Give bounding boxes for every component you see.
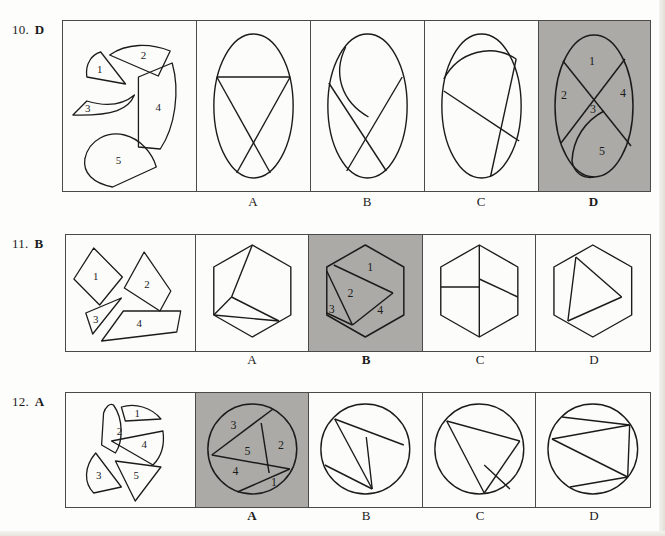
option-label-B: B	[309, 352, 423, 368]
piece-1-shape	[87, 52, 126, 84]
question-12-answer: A	[35, 394, 45, 409]
piece-label-3: 3	[85, 102, 91, 114]
piece-label-2: 2	[144, 278, 149, 290]
question-10-option-labels: A B C D	[0, 194, 665, 212]
piece-label-3: 3	[96, 469, 102, 481]
question-10-answer: D	[35, 22, 45, 37]
region-label-3: 3	[230, 418, 236, 432]
option-label-A: A	[195, 508, 309, 524]
question-12-option-C[interactable]	[423, 393, 537, 507]
question-12-number: 12.	[12, 394, 29, 409]
region-label-1: 1	[271, 475, 277, 489]
question-10-label: 10.D	[12, 22, 44, 38]
question-11-option-D[interactable]	[536, 235, 650, 351]
region-label-3: 3	[590, 102, 596, 116]
question-10-option-A[interactable]	[197, 21, 311, 191]
question-12-strip: 2 1 4 3 5 3 5	[65, 392, 651, 508]
region-label-3: 3	[329, 302, 335, 316]
question-11-label: 11.B	[12, 236, 43, 252]
piece-3-shape	[87, 453, 122, 493]
option-label-D: D	[537, 508, 651, 524]
question-row-11: 11.B 1 2 3 4	[0, 232, 665, 368]
question-12-label: 12.A	[12, 394, 44, 410]
piece-3-shape	[73, 95, 135, 115]
question-12-option-labels: A B C D	[0, 508, 665, 526]
region-label-2: 2	[348, 286, 354, 300]
option-label-C: C	[424, 194, 538, 210]
option-label-B: B	[310, 194, 424, 210]
question-11-number: 11.	[12, 236, 28, 251]
question-11-option-A[interactable]	[196, 235, 310, 351]
page-edge-bottom	[0, 531, 665, 536]
question-12-option-B[interactable]	[309, 393, 423, 507]
region-label-4: 4	[620, 86, 626, 100]
piece-label-4: 4	[156, 101, 162, 113]
piece-label-5: 5	[133, 469, 139, 481]
option-label-B: B	[309, 508, 423, 524]
piece-label-2: 2	[141, 49, 146, 61]
region-label-4: 4	[232, 464, 238, 478]
question-11-option-C[interactable]	[423, 235, 537, 351]
option-label-C: C	[423, 508, 537, 524]
question-12-option-D[interactable]	[536, 393, 650, 507]
region-label-5: 5	[244, 444, 250, 458]
question-10-option-D[interactable]: 1 2 3 4 5	[539, 21, 650, 191]
question-11-answer: B	[34, 236, 43, 251]
region-label-1: 1	[589, 54, 595, 68]
piece-label-2: 2	[117, 425, 122, 437]
question-10-number: 10.	[12, 22, 29, 37]
piece-label-1: 1	[93, 270, 98, 282]
piece-label-4: 4	[136, 317, 142, 329]
piece-label-3: 3	[93, 313, 99, 325]
piece-1-shape	[121, 406, 161, 422]
piece-3-shape	[86, 298, 122, 334]
question-10-pieces-panel: 1 2 3 4 5	[63, 21, 197, 191]
question-10-strip: 1 2 3 4 5	[62, 20, 651, 192]
question-11-strip: 1 2 3 4	[65, 234, 651, 352]
region-label-2: 2	[278, 438, 284, 452]
piece-label-5: 5	[116, 154, 122, 166]
piece-label-1: 1	[134, 407, 139, 419]
option-label-D: D	[538, 194, 649, 210]
question-11-option-labels: A B C D	[0, 352, 665, 370]
region-label-1: 1	[367, 260, 373, 274]
question-10-option-C[interactable]	[425, 21, 539, 191]
option-label-A: A	[195, 352, 309, 368]
question-11-option-B[interactable]: 1 2 3 4	[309, 235, 423, 351]
option-label-D: D	[537, 352, 651, 368]
question-12-option-A[interactable]: 3 5 2 4 1	[196, 393, 310, 507]
question-11-pieces-panel: 1 2 3 4	[66, 235, 196, 351]
question-10-option-B[interactable]	[311, 21, 425, 191]
piece-label-4: 4	[141, 438, 147, 450]
question-12-pieces-panel: 2 1 4 3 5	[66, 393, 196, 507]
region-label-2: 2	[561, 88, 567, 102]
option-label-A: A	[196, 194, 310, 210]
region-label-4: 4	[377, 303, 383, 317]
question-row-10: 10.D 1 2 3 4 5	[0, 18, 665, 214]
question-row-12: 12.A 2 1 4 3 5	[0, 390, 665, 516]
option-label-C: C	[423, 352, 537, 368]
piece-label-1: 1	[97, 63, 102, 75]
region-label-5: 5	[599, 144, 605, 158]
